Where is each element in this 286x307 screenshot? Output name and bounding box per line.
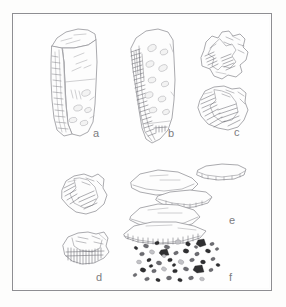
figure-label-e: e bbox=[229, 215, 235, 226]
figure-label-c: c bbox=[234, 127, 240, 138]
figure-label-a: a bbox=[93, 128, 99, 139]
figure-b-exhausted-blade-core bbox=[131, 29, 175, 143]
plate-page: .o { fill:#fdfdfd; stroke:#9b9b9f; strok… bbox=[0, 0, 286, 307]
lithic-illustration-artwork: .o { fill:#fdfdfd; stroke:#9b9b9f; strok… bbox=[0, 0, 286, 307]
figure-c-angular-core-fragments bbox=[198, 31, 248, 130]
figure-a-prismatic-blade-core bbox=[51, 29, 97, 136]
figure-label-b: b bbox=[168, 128, 174, 139]
figure-f-microdebitage-scatter bbox=[133, 239, 221, 282]
figure-label-d: d bbox=[96, 272, 102, 283]
figure-d-core-rejuvenation-pieces bbox=[62, 174, 109, 264]
figure-e-flat-flakes-and-platform-tablet bbox=[124, 164, 246, 244]
figure-label-f: f bbox=[229, 272, 232, 283]
